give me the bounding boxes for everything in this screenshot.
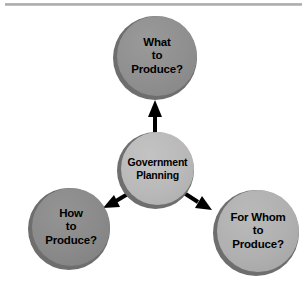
- node-disc: What to Produce?: [117, 16, 197, 96]
- node-how-to-produce[interactable]: How to Produce?: [28, 188, 110, 270]
- node-label: For Whom to Produce?: [230, 211, 285, 252]
- node-disc: How to Produce?: [32, 188, 110, 266]
- node-label: What to Produce?: [131, 36, 182, 77]
- arrow-up-icon: [148, 100, 162, 132]
- diagram-canvas: What to Produce? Government Planning How…: [0, 0, 308, 282]
- node-what-to-produce[interactable]: What to Produce?: [113, 16, 197, 100]
- node-label: How to Produce?: [45, 207, 96, 248]
- node-government-planning[interactable]: Government Planning: [117, 132, 194, 209]
- node-disc: For Whom to Produce?: [217, 190, 299, 272]
- node-label: Government Planning: [128, 156, 188, 181]
- node-disc: Government Planning: [121, 132, 194, 205]
- header-divider: [5, 3, 302, 6]
- node-for-whom-to-produce[interactable]: For Whom to Produce?: [213, 190, 299, 276]
